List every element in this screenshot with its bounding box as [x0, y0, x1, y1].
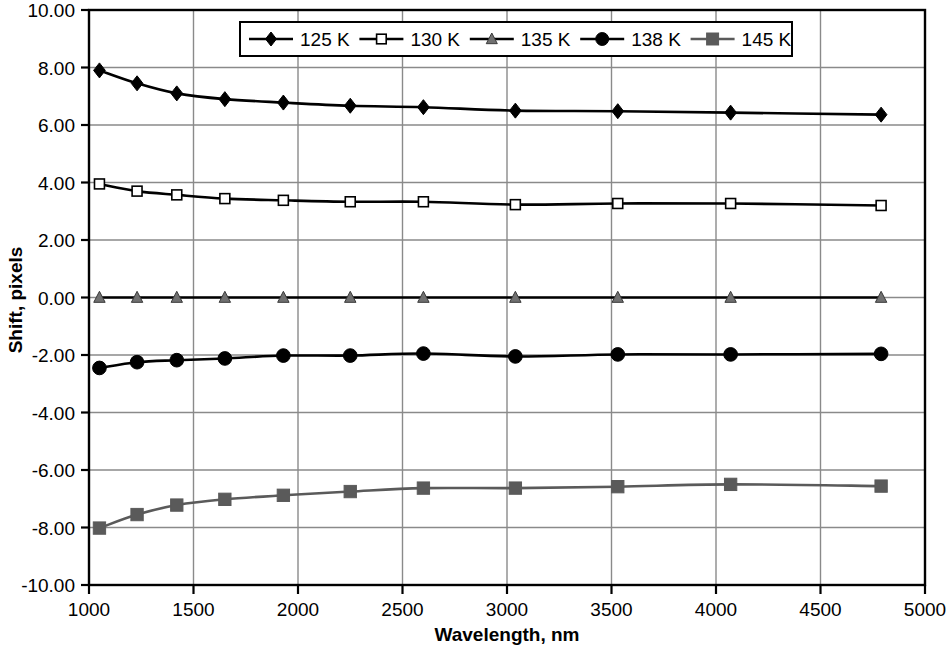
- x-tick-label: 1000: [68, 599, 110, 620]
- data-point-marker: [277, 349, 291, 363]
- y-tick-label: -4.00: [32, 403, 75, 424]
- y-tick-label: 10.00: [27, 0, 75, 21]
- y-tick-label: -10.00: [21, 575, 75, 596]
- data-point-marker: [130, 355, 144, 369]
- legend-marker-sample: [707, 33, 719, 45]
- data-point-marker: [510, 200, 520, 210]
- chart-legend: 125 K130 K135 K138 K145 K: [240, 22, 792, 56]
- x-tick-label: 2500: [381, 599, 423, 620]
- y-axis-title: Shift, pixels: [5, 247, 26, 354]
- legend-marker-sample: [596, 33, 609, 46]
- legend-label: 125 K: [300, 29, 350, 50]
- data-point-marker: [344, 485, 356, 497]
- shift-vs-wavelength-chart: 10.008.006.004.002.000.00-2.00-4.00-6.00…: [0, 0, 949, 652]
- x-tick-label: 4000: [695, 599, 737, 620]
- x-tick-label: 5000: [904, 599, 946, 620]
- data-point-marker: [417, 347, 431, 361]
- data-point-marker: [219, 493, 231, 505]
- y-tick-label: 8.00: [38, 58, 75, 79]
- x-tick-label: 1500: [172, 599, 214, 620]
- data-point-marker: [343, 349, 357, 363]
- data-point-marker: [417, 482, 429, 494]
- data-point-marker: [93, 361, 107, 375]
- x-tick-label: 3000: [486, 599, 528, 620]
- data-point-marker: [611, 348, 625, 362]
- data-point-marker: [94, 179, 104, 189]
- data-point-marker: [418, 197, 428, 207]
- data-point-marker: [220, 194, 230, 204]
- legend-marker-sample: [377, 34, 387, 44]
- legend-label: 135 K: [521, 29, 571, 50]
- data-point-marker: [875, 480, 887, 492]
- data-point-marker: [724, 478, 736, 490]
- data-point-marker: [277, 489, 289, 501]
- x-tick-label: 2000: [277, 599, 319, 620]
- chart-container: 10.008.006.004.002.000.00-2.00-4.00-6.00…: [0, 0, 949, 652]
- y-tick-label: -2.00: [32, 345, 75, 366]
- data-point-marker: [345, 197, 355, 207]
- legend-label: 130 K: [410, 29, 460, 50]
- data-point-marker: [170, 353, 184, 367]
- data-point-marker: [509, 482, 521, 494]
- y-tick-label: 4.00: [38, 173, 75, 194]
- data-point-marker: [509, 350, 523, 364]
- chart-background: [0, 0, 949, 652]
- data-point-marker: [171, 499, 183, 511]
- legend-label: 145 K: [742, 29, 792, 50]
- legend-label: 138 K: [631, 29, 681, 50]
- y-tick-label: -6.00: [32, 460, 75, 481]
- x-axis-tick-labels: 100015002000250030003500400045005000: [68, 599, 946, 620]
- data-point-marker: [724, 348, 738, 362]
- y-tick-label: 6.00: [38, 115, 75, 136]
- x-tick-label: 3500: [590, 599, 632, 620]
- y-tick-label: 0.00: [38, 288, 75, 309]
- data-point-marker: [876, 201, 886, 211]
- x-tick-label: 4500: [799, 599, 841, 620]
- data-point-marker: [93, 522, 105, 534]
- data-point-marker: [726, 199, 736, 209]
- data-point-marker: [612, 481, 624, 493]
- data-point-marker: [218, 352, 232, 366]
- data-point-marker: [278, 195, 288, 205]
- data-point-marker: [613, 199, 623, 209]
- x-axis-title: Wavelength, nm: [435, 624, 580, 645]
- data-point-marker: [132, 186, 142, 196]
- data-point-marker: [874, 347, 888, 361]
- y-tick-label: 2.00: [38, 230, 75, 251]
- data-point-marker: [172, 190, 182, 200]
- y-tick-label: -8.00: [32, 518, 75, 539]
- data-point-marker: [131, 508, 143, 520]
